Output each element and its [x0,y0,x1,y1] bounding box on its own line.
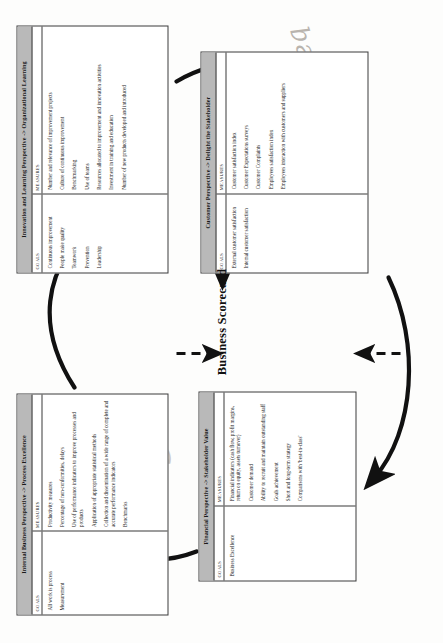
perspective-title-innovation-learning: Innovation and Learning Perspective -> O… [17,26,32,272]
goals-column: GOALS External customer satisfaction Int… [216,193,367,272]
measure-item: Resources allocated to improvement and i… [95,29,102,189]
measure-item: Number and relevance of improvement proj… [46,29,53,189]
measure-item: Investment in training and education [107,29,114,189]
measure-item: Use of performance indicators to improve… [70,397,84,526]
goals-column-header: GOALS [216,194,226,272]
goals-column-body: Continuous improvement People make quali… [42,194,167,272]
measure-item: Financial indicators (cash flow, profit … [228,395,242,501]
perspective-title-customer: Customer Perspective -> Delight the Stak… [201,52,216,272]
scorecard-diagram: Internal Business Perspective -> Process… [0,0,443,643]
goal-item: External customer satisfaction [230,197,237,268]
measures-column-header: MEASURES [216,52,226,193]
goals-column-header: GOALS [214,506,224,580]
measure-item: Culture of continuous improvement [58,29,65,189]
goal-item: Prevention [83,197,90,268]
measures-column-body: Financial indicators (cash flow, profit … [224,392,355,505]
goal-item: Measurement [58,534,65,610]
goals-column: GOALS Continuous improvement People make… [32,193,167,272]
measure-item: Benchmarks [121,397,128,526]
perspective-box-financial: Financial Perspective -> Stakeholder Val… [198,391,356,581]
measures-column-body: Productivity measures Percentage of non-… [42,394,167,530]
goal-item: Leadership [95,197,102,268]
measure-item: Customer Complaints [254,55,261,189]
measures-column: MEASURES Financial indicators (cash flow… [214,392,355,505]
goals-column-body: All work is process Measurement [42,531,167,614]
cycle-arrow-customer-to-financial [374,277,409,477]
measures-column-body: Customer satisfaction index Customer Exp… [226,52,367,193]
measure-item: Benchmarking [70,29,77,189]
measure-item: Customer demand [247,395,254,501]
goals-column-header: GOALS [32,194,42,272]
measure-item: Productivity measures [46,397,53,526]
measure-item: Comparisons with 'best-in-class' [296,395,303,501]
perspective-box-innovation-learning: Innovation and Learning Perspective -> O… [16,25,168,273]
measure-item: Employees satisfaction index [267,55,274,189]
measures-column-header: MEASURES [32,26,42,193]
measure-item: Use of teams [83,29,90,189]
measure-item: Short and long-term strategy [284,395,291,501]
measure-item: Collection and dissemination of a wide r… [102,397,116,526]
measure-item: Goals achievement [272,395,279,501]
measure-item: Number of new products developed and int… [120,29,127,189]
perspective-table-customer: GOALS External customer satisfaction Int… [216,52,367,272]
measure-item: Customer Expectations surveys [242,55,249,189]
goal-item: All work is process [46,534,53,610]
perspective-title-internal-business: Internal Business Perspective -> Process… [17,394,32,614]
measure-item: Ability to recruit and maintain outstand… [259,395,266,501]
measures-column: MEASURES Number and relevance of improve… [32,26,167,193]
goals-column-body: External customer satisfaction Internal … [226,194,367,272]
goal-item: Internal customer satisfaction [242,197,249,268]
measures-column: MEASURES Customer satisfaction index Cus… [216,52,367,193]
measures-column-header: MEASURES [32,394,42,530]
measure-item: Customer satisfaction index [230,55,237,189]
goal-item: People make quality [58,197,65,268]
measure-item: Employees interaction with customers and… [279,55,286,189]
measures-column-header: MEASURES [214,392,224,505]
measures-column: MEASURES Productivity measures Percentag… [32,394,167,530]
goals-column-body: Business Excellence [224,506,355,580]
perspective-title-financial: Financial Perspective -> Stakeholder Val… [199,392,214,580]
perspective-table-financial: GOALS Business Excellence MEASURES Finan… [214,392,355,580]
perspective-box-internal-business: Internal Business Perspective -> Process… [16,393,168,615]
measure-item: Percentage of non-conformities, delays [58,397,65,526]
goals-column: GOALS Business Excellence [214,505,355,580]
perspective-table-internal-business: GOALS All work is process Measurement ME… [32,394,167,614]
perspective-box-customer: Customer Perspective -> Delight the Stak… [200,51,368,273]
goals-column-header: GOALS [32,531,42,614]
goal-item: Continuous improvement [46,197,53,268]
perspective-table-innovation-learning: GOALS Continuous improvement People make… [32,26,167,272]
goal-item: Teamwork [70,197,77,268]
measure-item: Application of appropriate statistical m… [90,397,97,526]
center-label-business-scorecard: Business Scorecard [214,268,229,375]
goals-column: GOALS All work is process Measurement [32,530,167,614]
goal-item: Business Excellence [228,509,235,576]
measures-column-body: Number and relevance of improvement proj… [42,26,167,193]
